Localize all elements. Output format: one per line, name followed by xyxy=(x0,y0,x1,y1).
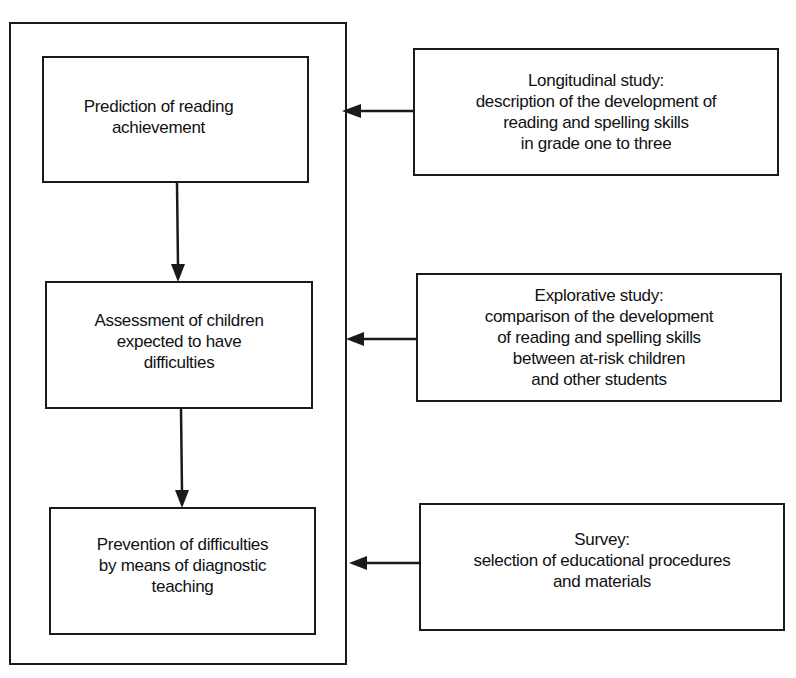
prevention-label: Prevention of difficulties by means of d… xyxy=(97,509,268,597)
survey-label: Survey: selection of educational procedu… xyxy=(474,505,731,592)
arrowhead-left-icon xyxy=(346,332,364,346)
assessment-box: Assessment of children expected to have … xyxy=(45,281,313,409)
prediction-box: Prediction of reading achievement xyxy=(42,56,309,183)
arrowhead-left-icon xyxy=(349,556,367,570)
longitudinal-study-box: Longitudinal study: description of the d… xyxy=(413,48,779,176)
explorative-study-label: Explorative study: comparison of the dev… xyxy=(485,275,714,390)
prevention-box: Prevention of difficulties by means of d… xyxy=(49,507,316,635)
explorative-study-box: Explorative study: comparison of the dev… xyxy=(416,273,782,402)
survey-box: Survey: selection of educational procedu… xyxy=(419,503,785,631)
assessment-label: Assessment of children expected to have … xyxy=(94,283,263,373)
prediction-label: Prediction of reading achievement xyxy=(44,58,307,138)
longitudinal-study-label: Longitudinal study: description of the d… xyxy=(476,50,717,154)
